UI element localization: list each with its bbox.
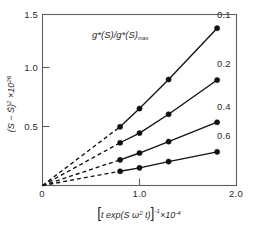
y-tick-label-1-5: 1.5 xyxy=(24,9,38,20)
x-axis-body: t exp(S ω xyxy=(101,210,139,220)
x-axis-title: [t exp(S ω2 t)]-1×10-4 xyxy=(97,205,181,221)
series-label-0.6: 0.6 xyxy=(217,130,231,141)
data-point xyxy=(137,150,142,155)
y-tick-label-1-0: 1.0 xyxy=(24,62,38,73)
data-point xyxy=(137,165,142,170)
series-0.1-extrapolation xyxy=(43,127,121,186)
data-point xyxy=(215,120,220,125)
plot-annotation-main: g*(S)/g*(S) xyxy=(92,29,138,40)
data-point xyxy=(118,169,123,174)
series-label-0.4: 0.4 xyxy=(217,101,231,112)
data-point xyxy=(166,112,171,117)
data-point xyxy=(166,159,171,164)
series-0.4 xyxy=(43,120,220,186)
x-tick-label-1-0: 1.0 xyxy=(133,188,147,199)
y-axis-multiplier: ×10 xyxy=(6,83,16,101)
data-point xyxy=(137,106,142,111)
x-axis-multiplier-exponent: -4 xyxy=(175,209,181,216)
series-0.2-extrapolation xyxy=(43,143,121,186)
series-label-0.1: 0.1 xyxy=(217,9,231,20)
series-0.6-extrapolation xyxy=(43,171,121,185)
chart-plot: 1.5 1.0 0.5 0 1.0 2.0 g*(S)/g*(S)max [t … xyxy=(0,0,253,231)
data-point xyxy=(166,77,171,82)
x-axis-body-tail: t) xyxy=(143,210,151,220)
data-point xyxy=(118,157,123,162)
data-point xyxy=(118,140,123,145)
plot-annotation: g*(S)/g*(S)max xyxy=(92,29,149,41)
y-axis-ticks xyxy=(43,68,50,127)
y-axis-multiplier-exponent: 26 xyxy=(5,75,12,83)
y-tick-label-0-5: 0.5 xyxy=(24,121,38,132)
y-axis-body: (S − S̄) xyxy=(6,104,16,132)
x-axis-multiplier: ×10 xyxy=(160,210,175,220)
figure-container: 1.5 1.0 0.5 0 1.0 2.0 g*(S)/g*(S)max [t … xyxy=(0,0,253,231)
data-point xyxy=(215,77,220,82)
data-point xyxy=(215,149,220,154)
x-tick-label-2-0: 2.0 xyxy=(229,188,243,199)
data-point xyxy=(137,130,142,135)
series-label-0.2: 0.2 xyxy=(217,58,231,69)
series-layer xyxy=(43,26,220,186)
series-0.1 xyxy=(43,26,220,186)
data-point xyxy=(215,26,220,31)
series-0.6 xyxy=(43,149,220,185)
y-axis-title: (S − S̄)2 ×1026 xyxy=(5,75,17,132)
data-point xyxy=(166,139,171,144)
data-point xyxy=(118,124,123,129)
x-tick-label-0: 0 xyxy=(39,188,44,199)
plot-annotation-subscript: max xyxy=(138,35,149,41)
